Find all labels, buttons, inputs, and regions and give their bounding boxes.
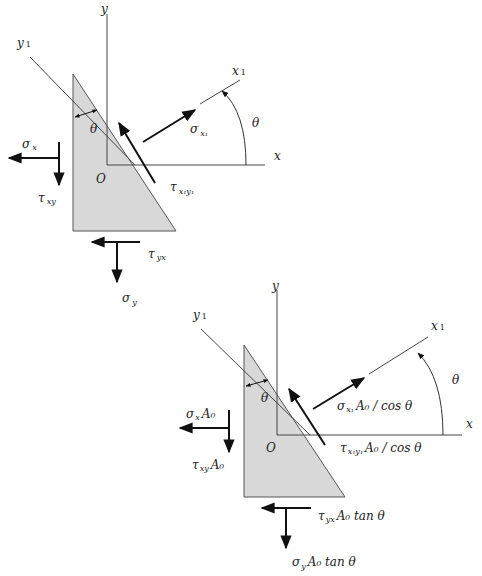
label-tau-x1y1-a0-cos: τx₁y₁A₀ / cos θ xyxy=(340,441,422,456)
wedge-element xyxy=(73,74,176,231)
wedge-element xyxy=(244,345,345,497)
label-theta-inner: θ xyxy=(90,122,98,136)
label-sigma-x1-a0-cos: σx₁A₀ / cos θ xyxy=(337,399,413,414)
label-x1: x1 xyxy=(232,64,246,78)
label-tau-yx: τyx xyxy=(148,247,166,262)
label-y1: y1 xyxy=(16,36,31,50)
label-y1: y1 xyxy=(192,308,207,322)
label-theta-inner: θ xyxy=(261,391,269,405)
label-x: x xyxy=(466,417,473,431)
diagram-top: y y1 x1 x O θ θ σx τxy τyx σy σx₁ τx₁y₁ xyxy=(9,2,281,307)
theta-arc xyxy=(418,353,443,435)
diagram-bottom: y y1 x1 x O θ θ σxA₀ τxyA₀ τyxA₀ tan θ σ… xyxy=(180,279,473,571)
sigma-x1-arrow xyxy=(143,110,195,142)
label-origin: O xyxy=(96,172,106,186)
label-x: x xyxy=(274,149,281,163)
label-y: y xyxy=(271,279,279,293)
label-sigma-y-a0-tan: σyA₀ tan θ xyxy=(292,555,357,571)
label-x1: x1 xyxy=(431,319,445,333)
label-sigma-x1: σx₁ xyxy=(190,122,208,138)
label-y: y xyxy=(100,2,108,16)
theta-arc xyxy=(222,91,246,165)
label-theta-arc: θ xyxy=(452,373,460,387)
x1-axis xyxy=(200,80,240,104)
x1-axis xyxy=(369,337,428,374)
label-theta-arc: θ xyxy=(252,116,260,130)
label-origin: O xyxy=(266,441,276,455)
label-tau-xy: τxy xyxy=(38,191,56,206)
label-sigma-y: σy xyxy=(122,291,137,307)
label-sigma-x-a0: σxA₀ xyxy=(186,407,215,422)
label-tau-xy-a0: τxyA₀ xyxy=(192,458,224,473)
label-tau-yx-a0-tan: τyxA₀ tan θ xyxy=(318,509,385,524)
label-tau-x1y1: τx₁y₁ xyxy=(170,180,194,196)
stress-transformation-diagram: y y1 x1 x O θ θ σx τxy τyx σy σx₁ τx₁y₁ … xyxy=(0,0,482,576)
label-sigma-x: σx xyxy=(22,137,37,152)
